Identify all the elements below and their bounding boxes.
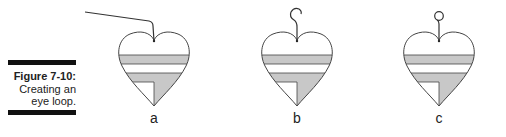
panel-label-a: a [144,110,164,126]
wire-a [85,12,154,41]
heart-b [257,32,337,112]
wire-c-eye-loop [435,12,444,21]
heart-a [114,32,194,112]
panel-label-b: b [287,110,307,126]
heart-c [399,32,479,112]
panel-label-c: c [429,110,449,126]
